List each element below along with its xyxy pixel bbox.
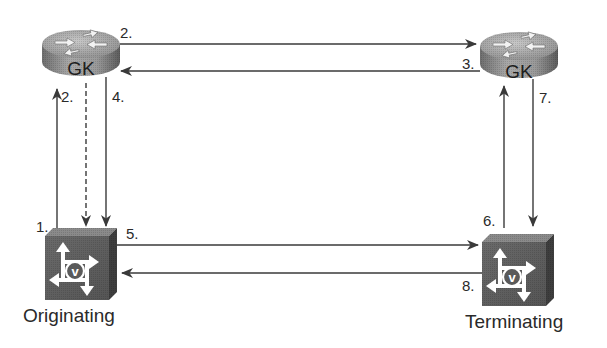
diagram-canvas: v [0, 0, 607, 348]
step-label-4: 4. [112, 89, 125, 104]
step-label-8: 8. [462, 278, 475, 293]
step-label-5: 5. [126, 226, 139, 241]
step-label-1: 1. [36, 219, 49, 234]
step-label-6: 6. [483, 213, 496, 228]
gk-right-label: GK [489, 62, 549, 81]
gk-left-label: GK [51, 59, 111, 78]
step-label-2-top: 2. [120, 25, 133, 40]
step-label-3: 3. [462, 56, 475, 71]
step-label-7: 7. [539, 90, 552, 105]
originating-label: Originating [23, 306, 115, 325]
voice-gateway-icon [482, 234, 554, 306]
step-label-2-left: 2. [61, 89, 74, 104]
terminating-label: Terminating [465, 312, 563, 331]
voice-gateway-icon [45, 228, 117, 300]
